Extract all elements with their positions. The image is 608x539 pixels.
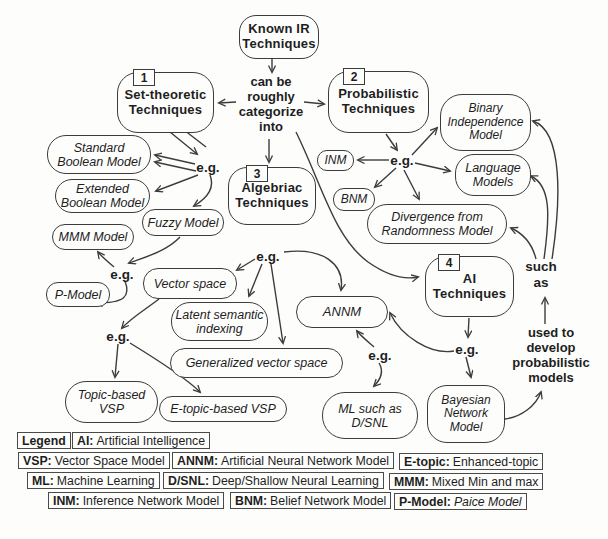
arrow-fuzzy-to-eg2 <box>129 237 180 263</box>
legend-entry-mmm: MMM:Mixed Min and max <box>389 473 543 490</box>
node-ml-such-as-dsnl: ML such as D/SNL <box>322 392 418 439</box>
node-divergence-from-randomness-model: Divergence from Randomness Model <box>367 204 507 244</box>
eg-label-set: e.g. <box>196 160 219 175</box>
legend-value-dsnl: Deep/Shallow Neural Learning <box>212 474 379 488</box>
label-used-to-develop-probabilistic-models: used to develop probabilistic models <box>512 325 589 385</box>
arrow-eg2-to-mmm <box>98 252 114 267</box>
legend-key-bnm: BNM: <box>235 494 267 508</box>
node-p-model: P-Model <box>46 282 110 307</box>
badge-2: 2 <box>343 68 365 85</box>
legend-value-vsp: Vector Space Model <box>55 454 165 468</box>
legend-entry-etopic: E-topic:Enhanced-topic <box>399 453 543 470</box>
arrow-suchas-to-binary <box>533 121 558 259</box>
label-can-be-roughly-categorize-into: can be roughly categorize into <box>239 74 303 134</box>
arrow-eg4-to-vector <box>237 259 255 270</box>
legend-entry-dsnl: D/SNL:Deep/Shallow Neural Learning <box>163 472 384 489</box>
arrow-eg6-to-bayesian <box>466 357 471 377</box>
node-latent-semantic-indexing: Latent semantic indexing <box>171 302 268 341</box>
node-standard-boolean-model: Standard Boolean Model <box>47 135 151 174</box>
legend-entry-vsp: VSP:Vector Space Model <box>18 452 170 469</box>
arrow-eg1-to-extended <box>156 175 198 191</box>
node-fuzzy-model: Fuzzy Model <box>142 209 224 236</box>
arrow-ai-to-eg6 <box>468 318 469 337</box>
arrow-eg6-to-annm <box>390 313 454 352</box>
legend-entry-ml: ML:Machine Learning <box>27 472 160 489</box>
arrow-connector-to-set <box>219 102 236 103</box>
legend-value-ai: Artificial Intelligence <box>96 434 205 448</box>
legend-entry-ai: AI:Artificial Intelligence <box>72 432 210 449</box>
node-set-theoretic-techniques: Set-theoretic Techniques <box>117 72 214 133</box>
legend-key-inm: INM: <box>53 494 80 508</box>
legend-entry-pmodel: P-Model:Paice Model <box>394 493 527 510</box>
arrow-eg5-to-bnm <box>375 168 396 187</box>
label-such-as: such as <box>525 259 557 290</box>
legend-key-annm: ANNM: <box>177 454 218 468</box>
arrow-eg1-to-fuzzy <box>194 175 212 206</box>
legend-key-dsnl: D/SNL: <box>168 474 209 488</box>
legend-entry-annm: ANNM:Artificial Neural Network Model <box>172 452 394 469</box>
node-inm: INM <box>317 150 354 171</box>
eg-label-annm: e.g. <box>368 348 391 363</box>
legend-value-pmodel: Paice Model <box>454 495 522 509</box>
legend-value-mmm: Mixed Min and max <box>432 475 539 489</box>
arrow-eg5-to-binary <box>412 128 437 155</box>
legend-key-pmodel: P-Model: <box>399 495 451 509</box>
node-extended-boolean-model: Extended Boolean Model <box>55 179 150 213</box>
node-algebriac-techniques: Algebriac Techniques <box>228 167 316 225</box>
arrow-eg7-to-annm <box>357 331 374 347</box>
arrow-prob-to-eg5 <box>386 134 397 150</box>
arrow-eg5-to-divergence <box>404 170 419 199</box>
node-annm: ANNM <box>296 296 388 328</box>
legend-key-mmm: MMM: <box>394 475 429 489</box>
node-bnm: BNM <box>333 188 375 211</box>
arrow-connector-to-prob <box>304 102 324 104</box>
arrow-eg4-to-annm <box>284 251 341 290</box>
node-generalized-vector-space: Generalized vector space <box>170 348 343 378</box>
legend-entry-bnm: BNM:Belief Network Model <box>230 492 391 509</box>
eg-label-algebriac: e.g. <box>256 249 279 264</box>
legend-value-bnm: Belief Network Model <box>270 494 386 508</box>
arrow-eg7-to-ml <box>374 363 382 386</box>
legend-key-vsp: VSP: <box>23 454 52 468</box>
legend-value-etopic: Enhanced-topic <box>453 455 538 469</box>
arrow-eg3-to-topic <box>115 344 118 377</box>
legend-key-ml: ML: <box>32 474 54 488</box>
node-language-models: Language Models <box>455 154 531 196</box>
node-bayesian-network-model: Bayesian Network Model <box>427 385 505 443</box>
arrow-eg5-to-language <box>415 163 450 171</box>
eg-label-vsp-group: e.g. <box>106 329 129 344</box>
node-vector-space: Vector space <box>143 268 237 299</box>
eg-label-fuzzy-group: e.g. <box>110 267 133 282</box>
legend-key-etopic: E-topic: <box>404 455 450 469</box>
badge-3: 3 <box>246 165 268 182</box>
arrow-suchas-to-divergence <box>511 228 536 259</box>
arrow-eg4-to-latent <box>249 264 262 296</box>
node-e-topic-based-vsp: E-topic-based VSP <box>159 396 287 422</box>
node-mmm-model: MMM Model <box>52 224 134 250</box>
arrow-set-to-eg1 <box>170 132 197 154</box>
legend-value-annm: Artificial Neural Network Model <box>221 454 389 468</box>
badge-1: 1 <box>133 69 155 86</box>
legend-title-text: Legend <box>22 434 66 448</box>
badge-4: 4 <box>438 254 460 271</box>
legend-key-ai: AI: <box>77 434 93 448</box>
arrow-vector-to-eg3 <box>122 299 159 328</box>
legend-value-ml: Machine Learning <box>57 474 155 488</box>
legend-entry-inm: INM:Inference Network Model <box>48 492 224 509</box>
legend-title: Legend <box>17 432 71 449</box>
arrow-suchas-to-language <box>531 176 548 259</box>
node-known-ir-techniques: Known IR Techniques <box>239 15 319 59</box>
node-topic-based-vsp: Topic-based VSP <box>65 381 158 423</box>
eg-label-probabilistic: e.g. <box>390 153 413 168</box>
ir-techniques-concept-map: Known IR Techniques can be roughly categ… <box>0 0 608 539</box>
eg-label-ai: e.g. <box>455 342 478 357</box>
arrow-bayesian-to-usedto <box>505 392 541 419</box>
arrow-eg4-to-generalized <box>271 264 283 343</box>
node-binary-independence-model: Binary Independence Model <box>440 94 531 151</box>
legend-value-inm: Inference Network Model <box>83 494 220 508</box>
